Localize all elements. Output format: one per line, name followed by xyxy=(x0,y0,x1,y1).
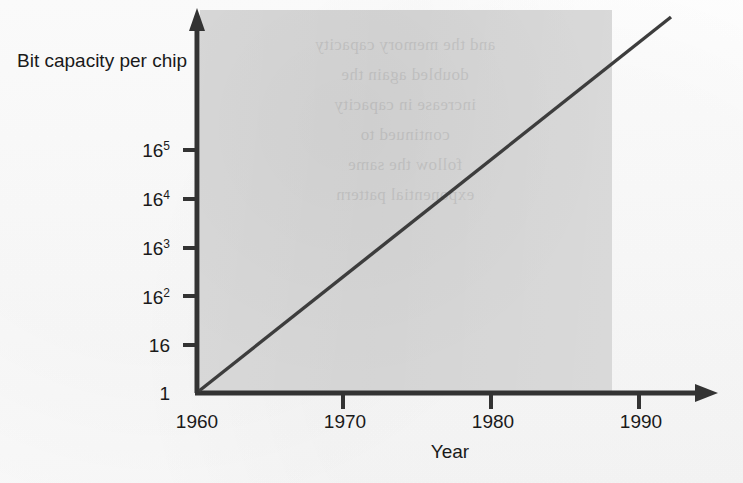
y-tick-label: 163 xyxy=(98,239,170,258)
y-tick-label-exponent: 5 xyxy=(163,139,170,153)
y-tick-label-exponent: 4 xyxy=(163,188,170,202)
x-tick-label: 1960 xyxy=(159,412,235,431)
x-tick-label: 1970 xyxy=(307,412,383,431)
y-tick-label-base: 16 xyxy=(142,189,163,210)
x-axis-title: Year xyxy=(404,441,496,463)
y-tick-label-base: 16 xyxy=(142,140,163,161)
y-axis-arrowhead xyxy=(189,8,205,31)
y-tick-label-base: 1 xyxy=(159,383,170,404)
chart-figure: and the memory capacity doubled again th… xyxy=(0,0,743,483)
y-tick-label: 165 xyxy=(98,141,170,160)
y-tick-label-base: 16 xyxy=(142,238,163,259)
y-tick-label-base: 16 xyxy=(149,335,170,356)
y-tick-label-exponent: 3 xyxy=(163,237,170,251)
series-line-bit-capacity xyxy=(199,17,671,391)
x-tick-label: 1980 xyxy=(455,412,531,431)
y-axis-title: Bit capacity per chip xyxy=(17,50,187,72)
y-tick-label: 164 xyxy=(98,190,170,209)
y-tick-label-base: 16 xyxy=(142,287,163,308)
y-tick-label-exponent: 2 xyxy=(163,286,170,300)
x-tick-label: 1990 xyxy=(603,412,679,431)
x-axis-arrowhead xyxy=(695,384,718,402)
y-tick-label: 1 xyxy=(98,384,170,403)
y-tick-label: 16 xyxy=(98,336,170,355)
y-tick-label: 162 xyxy=(98,288,170,307)
